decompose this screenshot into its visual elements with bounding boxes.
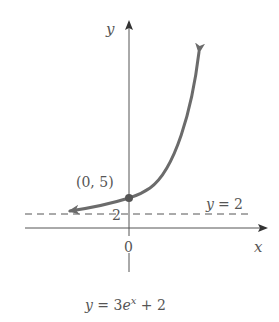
graph-canvas: y x (0, 5) 2 0 y= 2 y = 3ex + 2 xyxy=(0,0,279,322)
asymptote-label: y= 2 xyxy=(205,196,243,212)
y-axis-label: y xyxy=(105,20,115,38)
point-label: (0, 5) xyxy=(76,174,114,190)
function-caption: y = 3ex + 2 xyxy=(84,295,166,313)
y-tick-2: 2 xyxy=(112,207,121,223)
x-axis-label: x xyxy=(254,238,263,256)
point-0-5 xyxy=(125,194,133,202)
x-tick-0: 0 xyxy=(124,239,133,255)
